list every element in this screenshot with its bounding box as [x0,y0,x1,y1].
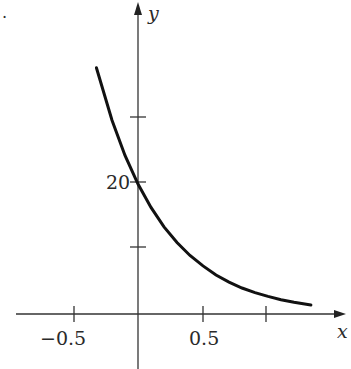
y-axis-arrow-icon [134,2,142,15]
x-axis-label: x [337,320,348,342]
exponential-decay-plot: . x y −0.5 0.5 20 [0,0,351,369]
y-axis-label: y [147,2,159,24]
y-tick-label-twenty: 20 [106,171,130,193]
corner-mark: . [2,3,7,22]
x-tick-label-neg-half: −0.5 [40,327,86,349]
x-axis-arrow-icon [334,310,346,318]
x-tick-label-half: 0.5 [189,327,219,349]
